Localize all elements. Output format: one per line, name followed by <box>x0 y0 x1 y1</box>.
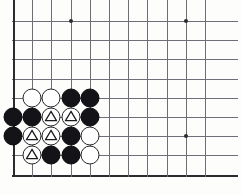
stone-white-c4-r7[interactable] <box>80 146 99 165</box>
go-board-diagram <box>0 0 242 195</box>
stone-white-c2-r4[interactable] <box>42 88 61 107</box>
stone-black-c3-r7[interactable] <box>61 146 80 165</box>
stone-white-c1-r4[interactable] <box>23 88 42 107</box>
star-point-0 <box>69 19 73 23</box>
stone-white-c4-r6[interactable] <box>80 127 99 146</box>
star-point-1 <box>184 19 188 23</box>
stone-black-c3-r6[interactable] <box>61 127 80 146</box>
grid-line-vertical-8 <box>167 0 168 177</box>
grid-line-vertical-5 <box>109 0 110 177</box>
stone-white-c2-r6[interactable] <box>42 127 61 146</box>
stone-white-c1-r6[interactable] <box>23 127 42 146</box>
stone-white-c3-r5[interactable] <box>61 108 80 127</box>
stone-black-c4-r5[interactable] <box>80 108 99 127</box>
stone-black-c4-r4[interactable] <box>80 88 99 107</box>
stone-white-c1-r7[interactable] <box>23 146 42 165</box>
stone-white-c2-r5[interactable] <box>42 108 61 127</box>
grid-line-vertical-6 <box>128 0 129 177</box>
stone-black-c0-r6[interactable] <box>4 127 23 146</box>
grid-line-vertical-10 <box>205 0 206 177</box>
grid-line-vertical-9 <box>186 0 187 177</box>
grid-line-vertical-0 <box>13 0 15 177</box>
stone-black-c0-r5[interactable] <box>4 108 23 127</box>
stone-black-c1-r5[interactable] <box>23 108 42 127</box>
grid-line-vertical-7 <box>147 0 148 177</box>
star-point-2 <box>184 134 188 138</box>
stone-black-c2-r7[interactable] <box>42 146 61 165</box>
stone-black-c3-r4[interactable] <box>61 88 80 107</box>
